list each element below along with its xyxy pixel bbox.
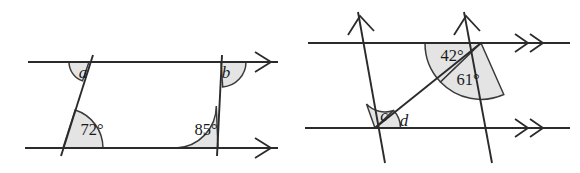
geometry-diagram: a 72° b 85° [0, 0, 580, 173]
angle-label-42: 42° [440, 46, 463, 65]
right-figure-slant-line-left [358, 12, 385, 163]
left-figure: a 72° b 85° [25, 52, 278, 158]
angle-label-a: a [79, 63, 88, 82]
angle-label-85: 85° [194, 120, 217, 139]
angle-label-61: 61° [456, 70, 479, 89]
angle-label-d: d [400, 111, 409, 130]
angle-label-72: 72° [80, 120, 103, 139]
angle-label-b: b [222, 63, 231, 82]
right-figure: 42° 61° c d [305, 12, 570, 163]
angle-label-c: c [380, 106, 388, 125]
